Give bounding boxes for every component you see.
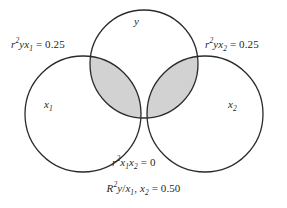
annotation-rx1x2-operator: = [138, 156, 150, 168]
caption-value: 0.50 [161, 182, 181, 194]
annotation-rx1x2-value: 0 [150, 156, 156, 168]
annotation-r-squared-y-x2: r2yx2 = 0.25 [205, 39, 259, 51]
annotation-ryx1-vars: yx [19, 38, 29, 50]
venn-diagram: y x1 x2 r2yx1 = 0.25 r2yx2 = 0.25 r2x1x2… [0, 0, 287, 208]
annotation-r-squared-y-x1: r2yx1 = 0.25 [11, 39, 65, 51]
set-label-y: y [134, 16, 139, 28]
caption-r-squared-multiple: R2y/x1, x2 = 0.50 [0, 183, 287, 195]
set-label-x1: x1 [44, 99, 53, 111]
set-label-x1-subscript: 1 [49, 104, 53, 113]
caption-operator: = [149, 182, 161, 194]
set-label-y-text: y [134, 15, 139, 27]
annotation-ryx2-operator: = [227, 38, 239, 50]
annotation-ryx2-vars: yx [213, 38, 223, 50]
annotation-r-squared-x1-x2: r2x1x2 = 0 [112, 157, 156, 169]
annotation-ryx1-operator: = [33, 38, 45, 50]
set-label-x2: x2 [228, 99, 237, 111]
annotation-ryx2-value: 0.25 [239, 38, 259, 50]
annotation-ryx1-value: 0.25 [45, 38, 65, 50]
set-label-x2-subscript: 2 [233, 104, 237, 113]
